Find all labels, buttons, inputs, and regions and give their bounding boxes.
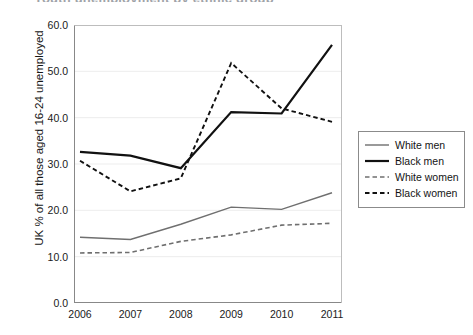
legend-line-swatch bbox=[364, 139, 390, 151]
legend-item: White men bbox=[359, 137, 464, 153]
legend-label: White women bbox=[395, 171, 459, 183]
legend-line-swatch bbox=[364, 155, 390, 167]
x-tick-label: 2006 bbox=[55, 308, 105, 320]
legend-label: White men bbox=[395, 139, 445, 151]
y-tick-label: 10.0 bbox=[26, 251, 68, 263]
x-tick-label: 2010 bbox=[257, 308, 307, 320]
y-tick-label: 40.0 bbox=[26, 112, 68, 124]
plot-svg bbox=[74, 25, 342, 303]
x-tick-label: 2008 bbox=[156, 308, 206, 320]
x-tick-label: 2011 bbox=[307, 308, 357, 320]
legend-item: Black men bbox=[359, 153, 464, 169]
series-line-white-women bbox=[80, 223, 332, 253]
chart-legend: White menBlack menWhite womenBlack women bbox=[358, 131, 465, 208]
plot-area bbox=[74, 25, 342, 303]
legend-line-swatch bbox=[364, 187, 390, 199]
series-line-white-men bbox=[80, 193, 332, 240]
legend-label: Black women bbox=[395, 187, 457, 199]
legend-item: White women bbox=[359, 169, 464, 185]
chart-title-cropped: Youth unemployment by ethnic group bbox=[34, 0, 334, 2]
legend-item: Black women bbox=[359, 185, 464, 201]
legend-line-swatch bbox=[364, 171, 390, 183]
y-tick-label: 30.0 bbox=[26, 158, 68, 170]
y-tick-label: 50.0 bbox=[26, 65, 68, 77]
legend-label: Black men bbox=[395, 155, 444, 167]
x-axis-tick-labels: 200620072008200920102011 bbox=[74, 308, 342, 326]
x-tick-label: 2009 bbox=[206, 308, 256, 320]
y-tick-label: 60.0 bbox=[26, 19, 68, 31]
series-line-black-men bbox=[80, 45, 332, 168]
series-line-black-women bbox=[80, 63, 332, 191]
y-axis-tick-labels: 0.010.020.030.040.050.060.0 bbox=[22, 25, 68, 303]
x-tick-label: 2007 bbox=[105, 308, 155, 320]
y-tick-label: 20.0 bbox=[26, 204, 68, 216]
chart-figure: Youth unemployment by ethnic group UK % … bbox=[0, 0, 473, 335]
